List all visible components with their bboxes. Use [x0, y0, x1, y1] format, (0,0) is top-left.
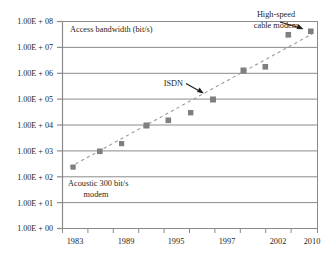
- x-tick-label-2010: 2010: [304, 237, 321, 246]
- acoustic-modem-annotation-line2: modem: [84, 190, 109, 199]
- x-tick-label-1983: 1983: [67, 237, 84, 246]
- chart-container: 1.00E + 08 1.00E + 07 1.00E + 06 1.00E +…: [0, 0, 334, 256]
- x-tick-label-1997: 1997: [219, 237, 236, 246]
- data-point-2006: [286, 32, 292, 38]
- y-tick-label-1e6: 1.00E + 06: [17, 69, 53, 78]
- data-point-1997: [210, 97, 216, 103]
- x-tick-label-1989: 1989: [118, 237, 135, 246]
- data-point-1986: [97, 149, 103, 155]
- y-tick-label-1e3: 1.00E + 03: [17, 147, 53, 156]
- y-tick-label-1e8: 1.00E + 08: [17, 17, 53, 26]
- high-speed-cable-modem-annotation-line1: High-speed: [257, 10, 296, 19]
- y-tick-label-1e2: 1.00E + 02: [17, 173, 53, 182]
- data-point-1992: [144, 123, 150, 129]
- x-tick-label-2002: 2002: [270, 237, 287, 246]
- x-axis-tick-labels: 1983 1989 1995 1997 2002 2010: [67, 237, 321, 246]
- y-axis-tick-labels: 1.00E + 08 1.00E + 07 1.00E + 06 1.00E +…: [17, 17, 53, 233]
- data-point-2002: [263, 64, 269, 70]
- data-point-1994: [166, 118, 172, 124]
- y-axis-ticks: [57, 22, 63, 229]
- data-point-1988: [119, 141, 124, 146]
- data-point-1996: [188, 110, 193, 115]
- x-axis-ticks: [63, 229, 318, 234]
- data-point-2010: [308, 29, 314, 35]
- data-point-1983: [71, 165, 76, 170]
- y-tick-label-1e0: 1.00E + 00: [17, 224, 53, 233]
- y-tick-label-1e1: 1.00E + 01: [17, 199, 53, 208]
- y-tick-label-1e4: 1.00E + 04: [17, 121, 53, 130]
- isdn-annotation: ISDN: [164, 79, 183, 88]
- acoustic-modem-annotation-line1: Acoustic 300 bit/s: [68, 179, 128, 188]
- data-point-2000: [241, 68, 247, 74]
- y-tick-label-1e7: 1.00E + 07: [17, 43, 53, 52]
- x-tick-label-1995: 1995: [168, 237, 185, 246]
- access-bandwidth-annotation: Access bandwidth (bit/s): [70, 25, 153, 34]
- bandwidth-growth-chart: 1.00E + 08 1.00E + 07 1.00E + 06 1.00E +…: [0, 0, 334, 256]
- y-tick-label-1e5: 1.00E + 05: [17, 95, 53, 104]
